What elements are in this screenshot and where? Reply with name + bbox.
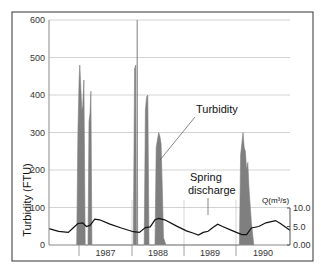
y2-tick-0.00: 0.00 xyxy=(293,240,311,250)
chart-canvas: 01002003004005006000.005.010.01987198819… xyxy=(0,0,321,270)
y-tick-600: 600 xyxy=(30,15,45,25)
x-label-1987: 1987 xyxy=(95,248,115,258)
chart-figure: 01002003004005006000.005.010.01987198819… xyxy=(0,0,321,270)
x-label-1989: 1989 xyxy=(200,248,220,258)
annotation-spring-line2: discharge xyxy=(188,184,236,196)
y2-axis-label: Q(m³/s) xyxy=(262,196,289,205)
y2-tick-5.0: 5.0 xyxy=(293,222,306,232)
y2-tick-10.0: 10.0 xyxy=(293,203,311,213)
x-label-1990: 1990 xyxy=(253,248,273,258)
y-tick-300: 300 xyxy=(30,128,45,138)
x-label-1988: 1988 xyxy=(148,248,168,258)
y-tick-400: 400 xyxy=(30,90,45,100)
y-tick-500: 500 xyxy=(30,53,45,63)
annotation-turbidity: Turbidity xyxy=(196,103,238,115)
y-axis-label: Turbidity (FTU) xyxy=(21,163,33,237)
annotation-spring-line1: Spring xyxy=(190,171,222,183)
y-tick-0: 0 xyxy=(40,240,45,250)
